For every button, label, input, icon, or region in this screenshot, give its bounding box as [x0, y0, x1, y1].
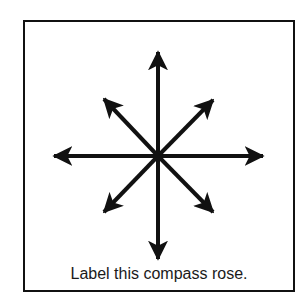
- arrow-northeast-icon: [158, 100, 213, 156]
- arrow-southeast-icon: [158, 156, 213, 212]
- caption-text: Label this compass rose.: [23, 265, 295, 283]
- arrow-southwest-icon: [104, 156, 158, 212]
- compass-rose-icon: [0, 0, 307, 302]
- arrow-northwest-icon: [104, 99, 158, 156]
